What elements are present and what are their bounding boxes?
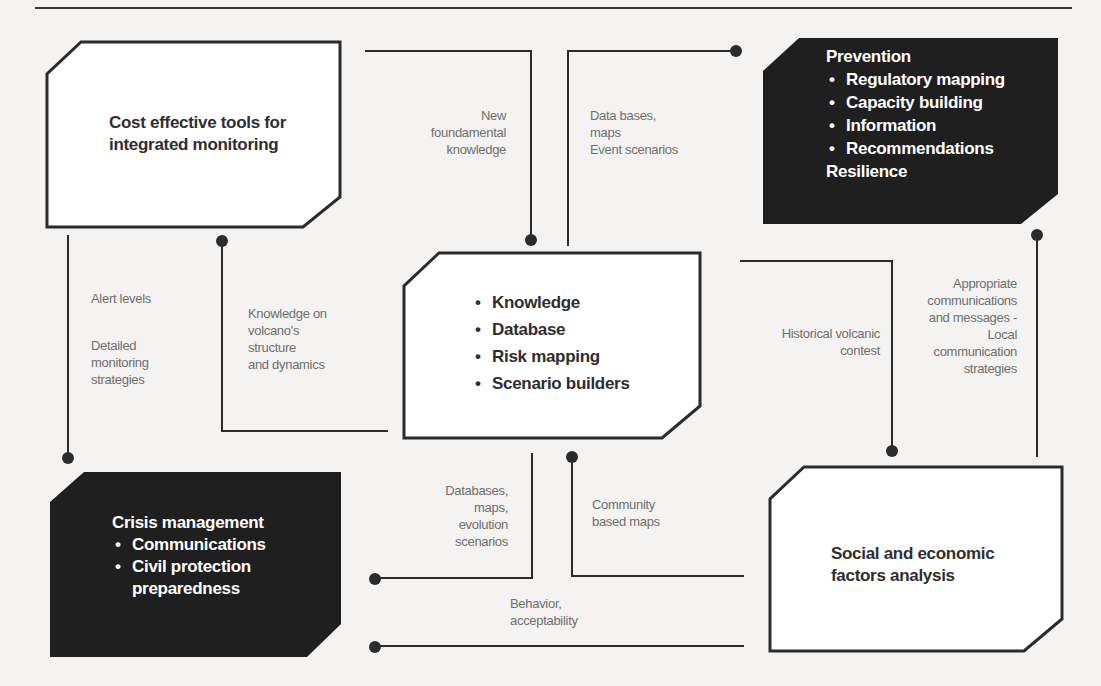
edge-label-behavior: Behavior, acceptability	[510, 595, 630, 629]
label-line: and messages -	[905, 309, 1017, 326]
label-line: Local	[905, 326, 1017, 343]
label-line: knowledge	[400, 141, 506, 158]
node-title-line: factors analysis	[831, 565, 994, 587]
list-item: Database	[472, 316, 630, 343]
node-core-knowledge: Knowledge Database Risk mapping Scenario…	[402, 251, 702, 441]
edge-end-dot	[62, 452, 74, 464]
label-line: evolution	[420, 516, 508, 533]
label-line: New	[400, 107, 506, 124]
label-line: foundamental	[400, 124, 506, 141]
label-line: acceptability	[510, 612, 630, 629]
edge-label-databases-evolution: Databases, maps, evolution scenarios	[420, 482, 508, 550]
edge-label-detailed-monitoring: Detailed monitoring strategies	[91, 337, 191, 388]
label-line: Detailed	[91, 337, 191, 354]
edge-label-appropriate-comms: Appropriate communications and messages …	[905, 275, 1017, 377]
node-content: Knowledge Database Risk mapping Scenario…	[472, 289, 630, 397]
label-line: monitoring	[91, 354, 191, 371]
list-item: Risk mapping	[472, 343, 630, 370]
node-integrated-monitoring: Cost effective tools for integrated moni…	[45, 40, 342, 231]
list-item: Knowledge	[472, 289, 630, 316]
label-line: maps,	[420, 499, 508, 516]
node-title: Social and economic factors analysis	[831, 543, 994, 587]
node-title: Cost effective tools for integrated moni…	[109, 112, 286, 156]
edge-end-dot	[216, 235, 228, 247]
label-line: Community	[592, 496, 702, 513]
node-title: Prevention	[826, 45, 1005, 68]
edge-end-dot	[1031, 229, 1043, 241]
label-line: Appropriate	[905, 275, 1017, 292]
label-line: Historical volcanic	[740, 325, 880, 342]
list-item-line: Civil protection	[132, 557, 251, 576]
edge-label-new-knowledge: New foundamental knowledge	[400, 107, 506, 158]
label-line: based maps	[592, 513, 702, 530]
edge-end-dot	[566, 451, 578, 463]
node-prevention: Prevention Regulatory mapping Capacity b…	[763, 37, 1058, 225]
label-line: communication	[905, 343, 1017, 360]
edge-label-data-bases: Data bases, maps Event scenarios	[590, 107, 720, 158]
label-line: Behavior,	[510, 595, 630, 612]
bullet-list: Knowledge Database Risk mapping Scenario…	[472, 289, 630, 397]
edge-end-dot	[730, 45, 742, 57]
label-line: volcano's	[248, 322, 358, 339]
bullet-list: Regulatory mapping Capacity building Inf…	[826, 68, 1005, 160]
label-line: strategies	[905, 360, 1017, 377]
edge-end-dot	[886, 445, 898, 457]
node-footer: Resilience	[826, 160, 1005, 183]
list-item: Recommendations	[826, 137, 1005, 160]
label-line: Knowledge on	[248, 305, 358, 322]
label-line: Databases,	[420, 482, 508, 499]
list-item: Capacity building	[826, 91, 1005, 114]
edge-label-historical-context: Historical volcanic contest	[740, 325, 880, 359]
label-line: Data bases,	[590, 107, 720, 124]
node-content: Prevention Regulatory mapping Capacity b…	[826, 45, 1005, 183]
label-line: maps	[590, 124, 720, 141]
label-line: communications	[905, 292, 1017, 309]
node-title-line: Cost effective tools for	[109, 112, 286, 134]
node-title-line: integrated monitoring	[109, 134, 286, 156]
list-item: Regulatory mapping	[826, 68, 1005, 91]
node-title: Crisis management	[112, 512, 266, 534]
label-line: Alert levels	[91, 290, 191, 307]
node-social-economic: Social and economic factors analysis	[768, 465, 1065, 655]
edge-end-dot	[369, 573, 381, 585]
edge-label-volcano-knowledge: Knowledge on volcano's structure and dyn…	[248, 305, 358, 373]
node-title-line: Social and economic	[831, 543, 994, 565]
list-item: Scenario builders	[472, 370, 630, 397]
node-crisis-management: Crisis management Communications Civil p…	[50, 472, 342, 658]
edge-end-dot	[525, 234, 537, 246]
list-item: Civil protectionpreparedness	[112, 556, 266, 600]
label-line: Event scenarios	[590, 141, 720, 158]
edge-label-alert-levels: Alert levels	[91, 290, 191, 307]
node-content: Crisis management Communications Civil p…	[112, 512, 266, 600]
label-line: contest	[740, 342, 880, 359]
list-item: Communications	[112, 534, 266, 556]
list-item-line: preparedness	[132, 579, 240, 598]
label-line: scenarios	[420, 533, 508, 550]
list-item: Information	[826, 114, 1005, 137]
bullet-list: Communications Civil protectionpreparedn…	[112, 534, 266, 600]
label-line: strategies	[91, 371, 191, 388]
edge-end-dot	[369, 641, 381, 653]
label-line: structure	[248, 339, 358, 356]
edge-label-community-maps: Community based maps	[592, 496, 702, 530]
label-line: and dynamics	[248, 356, 358, 373]
